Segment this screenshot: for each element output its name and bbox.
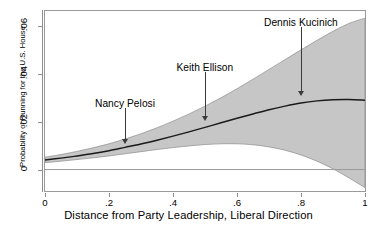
- y-tick-label: .02: [18, 105, 29, 135]
- y-tick: [38, 122, 42, 123]
- x-tick-label: 0: [30, 197, 60, 208]
- x-axis-title: Distance from Party Leadership, Liberal …: [0, 209, 377, 221]
- y-tick-label: .04: [18, 58, 29, 88]
- y-tick: [38, 26, 42, 27]
- annotation-arrow-head: [122, 139, 128, 144]
- annotation-arrow-line: [125, 108, 126, 139]
- chart-figure: Probability of Running for the U.S. Hous…: [0, 0, 377, 232]
- annotation-arrow-line: [205, 72, 206, 116]
- annotation-arrow-head: [298, 91, 304, 96]
- x-tick-label: .2: [94, 197, 124, 208]
- annotation-arrow-line: [301, 27, 302, 91]
- y-tick-label: 0: [18, 153, 29, 183]
- y-axis-line: [42, 10, 43, 192]
- y-tick-label: .06: [18, 10, 29, 40]
- x-tick-label: 1: [350, 197, 377, 208]
- y-tick: [38, 170, 42, 171]
- x-tick-label: .6: [222, 197, 252, 208]
- annotation-arrow-head: [202, 116, 208, 121]
- x-tick-label: .8: [286, 197, 316, 208]
- x-tick-label: .4: [158, 197, 188, 208]
- y-tick: [38, 74, 42, 75]
